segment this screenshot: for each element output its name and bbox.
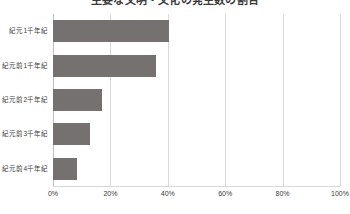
x-tick-label: 40%: [161, 190, 175, 197]
x-tick-label: 0%: [48, 190, 58, 197]
chart-title: 主要な文明・文化の発生数の割合: [0, 0, 350, 7]
category-label: 紀元前2千年紀: [0, 95, 48, 104]
x-axis-baseline: [53, 186, 340, 187]
x-tick-label: 20%: [103, 190, 117, 197]
bar: [53, 55, 156, 77]
bar: [53, 123, 90, 145]
bar-series: [53, 14, 340, 186]
plot-area: [53, 14, 340, 186]
bar: [53, 20, 169, 42]
x-axis-tick-labels: 0%20%40%60%80%100%: [53, 190, 340, 204]
gridline-100: [340, 14, 341, 186]
x-tick-label: 80%: [276, 190, 290, 197]
category-label: 紀元前3千年紀: [0, 129, 48, 138]
category-label: 紀元1千年紀: [0, 26, 48, 35]
category-label: 紀元前4千年紀: [0, 164, 48, 173]
bar: [53, 89, 102, 111]
bar-chart: 主要な文明・文化の発生数の割合 紀元1千年紀紀元前1千年紀紀元前2千年紀紀元前3…: [0, 0, 350, 214]
x-tick-label: 100%: [331, 190, 349, 197]
y-axis-category-labels: 紀元1千年紀紀元前1千年紀紀元前2千年紀紀元前3千年紀紀元前4千年紀: [0, 14, 51, 186]
category-label: 紀元前1千年紀: [0, 61, 48, 70]
x-tick-label: 60%: [218, 190, 232, 197]
bar: [53, 158, 77, 180]
